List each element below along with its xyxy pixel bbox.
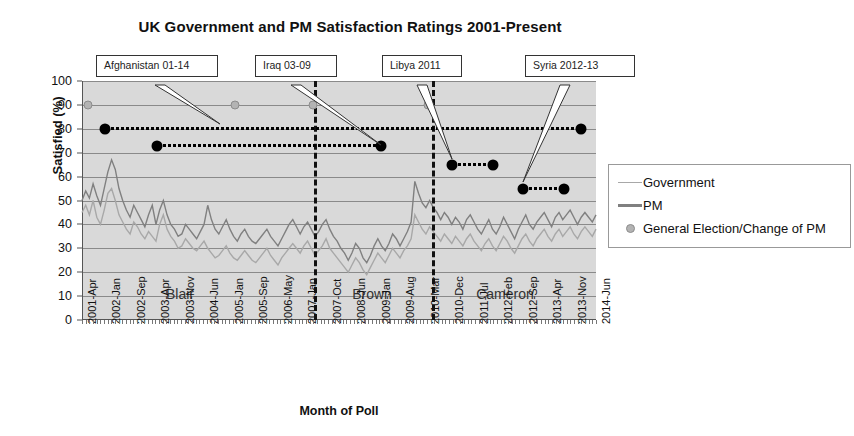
x-axis-minor-tick <box>302 320 303 324</box>
x-axis-minor-tick <box>468 320 469 324</box>
x-axis-minor-tick <box>174 320 175 324</box>
x-axis-minor-tick <box>589 320 590 324</box>
conflict-start-marker <box>447 159 458 170</box>
x-axis-minor-tick <box>141 320 142 324</box>
x-axis-minor-tick <box>519 320 520 324</box>
x-axis-minor-tick <box>534 320 535 324</box>
x-axis-minor-tick <box>185 320 186 324</box>
legend-item[interactable]: PM <box>617 194 842 217</box>
legend-line-icon <box>618 182 642 184</box>
x-axis-minor-tick <box>368 320 369 324</box>
x-axis-minor-tick <box>144 320 145 324</box>
x-axis-minor-tick <box>394 320 395 324</box>
x-axis-minor-tick <box>130 320 131 324</box>
x-axis-minor-tick <box>508 320 509 324</box>
legend-election-marker-icon <box>626 224 635 233</box>
x-axis-minor-tick <box>97 320 98 324</box>
x-axis-minor-tick <box>361 320 362 324</box>
x-axis-minor-tick <box>192 320 193 324</box>
conflict-callout: Syria 2012-13 <box>525 55 635 77</box>
x-axis-minor-tick <box>548 320 549 324</box>
x-axis-tick-label: 2009-Aug <box>404 276 416 324</box>
x-axis-minor-tick <box>405 320 406 324</box>
x-axis-tick-label: 2011-Jul <box>478 283 490 324</box>
x-axis-minor-tick <box>460 320 461 324</box>
x-axis-minor-tick <box>199 320 200 324</box>
x-axis-minor-tick <box>170 320 171 324</box>
x-axis-minor-tick <box>581 320 582 324</box>
x-axis-minor-tick <box>299 320 300 324</box>
x-axis-minor-tick <box>420 320 421 324</box>
x-axis-minor-tick <box>567 320 568 324</box>
x-axis-minor-tick <box>585 320 586 324</box>
x-axis-minor-tick <box>563 320 564 324</box>
x-axis-minor-tick <box>523 320 524 324</box>
conflict-callout: Iraq 03-09 <box>255 55 337 77</box>
x-axis-minor-tick <box>163 320 164 324</box>
x-axis-minor-tick <box>166 320 167 324</box>
x-axis-tick-label: 2014-Jun <box>600 278 612 324</box>
x-axis-minor-tick <box>236 320 237 324</box>
x-axis-minor-tick <box>181 320 182 324</box>
x-axis-minor-tick <box>504 320 505 324</box>
conflict-start-marker <box>518 183 529 194</box>
x-axis-minor-tick <box>453 320 454 324</box>
x-axis-minor-tick <box>332 320 333 324</box>
x-axis-minor-tick <box>277 320 278 324</box>
legend-item[interactable]: General Election/Change of PM <box>617 217 842 240</box>
x-axis-minor-tick <box>412 320 413 324</box>
chart-figure: UK Government and PM Satisfaction Rating… <box>0 0 854 436</box>
x-axis-minor-tick <box>387 320 388 324</box>
x-axis-minor-tick <box>552 320 553 324</box>
y-axis-tick-label: 70 <box>58 146 72 160</box>
conflict-dotted-line <box>105 127 581 130</box>
y-axis-tick-label: 10 <box>58 289 72 303</box>
x-axis-tick-label: 2004-Jun <box>208 278 220 324</box>
x-axis-title: Month of Poll <box>82 404 596 418</box>
y-axis-tick-label: 20 <box>58 265 72 279</box>
x-axis-minor-tick <box>328 320 329 324</box>
x-axis-minor-tick <box>456 320 457 324</box>
legend-label: General Election/Change of PM <box>643 221 826 236</box>
x-axis-minor-tick <box>530 320 531 324</box>
conflict-end-marker <box>559 183 570 194</box>
x-axis-minor-tick <box>537 320 538 324</box>
x-axis-minor-tick <box>376 320 377 324</box>
x-axis-tick-label: 2010-Mar <box>429 277 441 324</box>
x-axis-minor-tick <box>288 320 289 324</box>
y-axis-tick-label: 0 <box>65 313 72 327</box>
conflict-dotted-line <box>157 144 381 147</box>
x-axis-minor-tick <box>350 320 351 324</box>
x-axis-minor-tick <box>321 320 322 324</box>
x-axis-minor-tick <box>148 320 149 324</box>
x-axis-minor-tick <box>574 320 575 324</box>
x-axis-minor-tick <box>398 320 399 324</box>
x-axis-tick-label: 2007-Oct <box>331 279 343 324</box>
x-axis-minor-tick <box>137 320 138 324</box>
x-axis-minor-tick <box>89 320 90 324</box>
x-axis-minor-tick <box>86 320 87 324</box>
election-marker <box>309 100 318 109</box>
x-axis-minor-tick <box>119 320 120 324</box>
x-axis-minor-tick <box>427 320 428 324</box>
x-axis-minor-tick <box>188 320 189 324</box>
x-axis-minor-tick <box>324 320 325 324</box>
legend-label: PM <box>643 198 663 213</box>
x-axis-minor-tick <box>578 320 579 324</box>
x-axis-minor-tick <box>570 320 571 324</box>
x-axis-minor-tick <box>383 320 384 324</box>
x-axis-minor-tick <box>559 320 560 324</box>
x-axis-minor-tick <box>207 320 208 324</box>
conflict-end-marker <box>488 159 499 170</box>
x-axis-minor-tick <box>512 320 513 324</box>
legend-swatch-election <box>617 224 643 233</box>
x-axis-minor-tick <box>423 320 424 324</box>
x-axis-tick-label: 2007-Jan <box>306 278 318 324</box>
x-axis-minor-tick <box>357 320 358 324</box>
x-axis-minor-tick <box>339 320 340 324</box>
x-axis-minor-tick <box>313 320 314 324</box>
y-axis-tick-label: 90 <box>58 98 72 112</box>
x-axis-minor-tick <box>365 320 366 324</box>
legend-item[interactable]: Government <box>617 171 842 194</box>
x-axis-minor-tick <box>115 320 116 324</box>
